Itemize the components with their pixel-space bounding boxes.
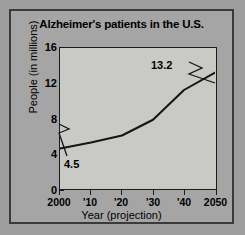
x-tick-label-2030: '30	[146, 196, 160, 208]
x-tick-label-2040: '40	[177, 196, 191, 208]
x-tick-label-2000: 2000	[47, 196, 70, 208]
annotation-value-end: 13.2	[151, 59, 172, 71]
y-tick-label-16: 16	[35, 41, 57, 53]
x-tick-mark-2030	[153, 190, 154, 195]
x-axis-label: Year (projection)	[11, 209, 232, 221]
x-tick-mark-2050	[216, 190, 217, 195]
x-tick-label-2050: 2050	[204, 196, 227, 208]
x-tick-mark-2020	[121, 190, 122, 195]
x-tick-mark-2000	[59, 190, 60, 195]
data-line-series	[60, 48, 215, 188]
x-tick-label-2010: '10	[83, 196, 97, 208]
y-tick-label-4: 4	[35, 148, 57, 160]
y-tick-label-8: 8	[35, 113, 57, 125]
y-tick-label-12: 12	[35, 77, 57, 89]
chart-title: Alzheimer's patients in the U.S.	[11, 18, 232, 30]
x-tick-mark-2010	[90, 190, 91, 195]
y-axis-tick-labels: 0 4 8 12 16	[31, 47, 57, 190]
chart-figure: Alzheimer's patients in the U.S. People …	[9, 9, 234, 224]
x-tick-mark-2040	[184, 190, 185, 195]
plot-area	[59, 47, 217, 190]
annotation-value-start: 4.5	[64, 158, 79, 170]
x-tick-label-2020: '20	[114, 196, 128, 208]
y-tick-label-0: 0	[35, 184, 57, 196]
